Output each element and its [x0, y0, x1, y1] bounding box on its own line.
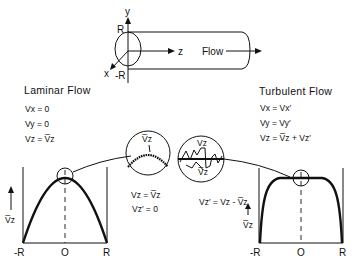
z-axis-arrow-icon — [168, 48, 175, 54]
laminar-tick-zero: O — [61, 247, 69, 258]
laminar-eq-z: Vz = V̅z — [25, 134, 55, 144]
laminar-inset: V̅z Vz = V̅z Vz′ = 0 — [126, 131, 170, 214]
turbulent-eq-x: Vx = Vx′ — [260, 103, 292, 113]
y-axis-label: y — [125, 6, 130, 17]
turbulent-title: Turbulent Flow — [259, 85, 332, 97]
turbulent-eq-y: Vy = Vy′ — [260, 118, 291, 128]
turbulent-profile: V̅z -R O R — [243, 168, 346, 258]
turbulent-axis-label: V̅z — [243, 220, 253, 230]
turbulent-tick-negR: -R — [250, 247, 261, 258]
y-axis-arrow-icon — [125, 17, 131, 24]
laminar-eq-y: Vy = 0 — [25, 119, 49, 129]
turbulent-connector — [224, 159, 290, 177]
laminar-inset-label: V̅z — [142, 134, 152, 144]
radius-label-bottom: -R — [115, 70, 126, 81]
pipe-diagram: y x z R -R Flow — [104, 6, 262, 83]
turbulent-equations: Turbulent Flow Vx = Vx′ Vy = Vy′ Vz = V̅… — [259, 85, 332, 143]
turbulent-inset-eq: Vz′ = Vz - V̅z — [199, 197, 248, 207]
flow-diagram: y x z R -R Flow Laminar Flow Vx = 0 Vy =… — [0, 0, 352, 267]
turbulent-tick-zero: O — [297, 247, 305, 258]
laminar-inset-eq2: Vz′ = 0 — [132, 204, 158, 214]
turbulent-inset-label-bottom: V̅z — [198, 167, 208, 177]
laminar-title: Laminar Flow — [24, 84, 91, 96]
laminar-inset-curve — [128, 155, 168, 167]
laminar-vz-arrow-icon — [8, 186, 14, 193]
laminar-inset-eq1: Vz = V̅z — [131, 190, 161, 200]
turbulent-inset-label-top: Vz — [197, 138, 207, 148]
laminar-eq-x: Vx = 0 — [25, 104, 50, 114]
laminar-equations: Laminar Flow Vx = 0 Vy = 0 Vz = V̅z — [24, 84, 91, 144]
laminar-profile: V̅z -R O R — [5, 156, 131, 258]
x-axis-label: x — [104, 68, 109, 79]
turbulent-tick-R: R — [339, 247, 346, 258]
flow-label: Flow — [202, 46, 224, 57]
laminar-axis-label: V̅z — [5, 215, 15, 225]
radius-label-top: R — [117, 24, 124, 35]
laminar-tick-negR: -R — [14, 247, 25, 258]
laminar-inset-pointer — [149, 145, 150, 152]
laminar-tick-R: R — [103, 247, 110, 258]
laminar-connector — [73, 156, 131, 172]
z-axis-label: z — [178, 46, 183, 57]
turbulent-inset: Vz V̅z Vz′ = Vz - V̅z — [178, 136, 290, 207]
turbulent-eq-z: Vz = V̅z + Vz′ — [260, 133, 311, 143]
flow-arrow-icon — [255, 48, 262, 54]
